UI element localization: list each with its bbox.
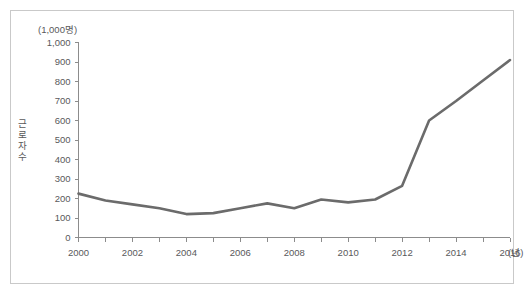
x-tick-label: 2004 bbox=[176, 247, 197, 258]
x-tick-label: 2014 bbox=[445, 247, 466, 258]
x-tick-label: 2010 bbox=[338, 247, 359, 258]
x-tick-label: 2002 bbox=[122, 247, 143, 258]
chart-figure: (1,000명) 근 로 자 수 01002003004005006007008… bbox=[0, 0, 525, 295]
y-tick-label: 400 bbox=[55, 154, 71, 165]
x-tick-label: 2006 bbox=[230, 247, 251, 258]
x-tick-label: 2000 bbox=[68, 247, 89, 258]
y-tick-label: 0 bbox=[65, 232, 70, 243]
y-tick-label: 300 bbox=[55, 173, 71, 184]
y-tick-label: 100 bbox=[55, 212, 71, 223]
y-axis-ticks: 01002003004005006007008009001,000 bbox=[47, 37, 79, 243]
y-tick-label: 700 bbox=[55, 95, 71, 106]
y-tick-label: 900 bbox=[55, 56, 71, 67]
y-tick-label: 800 bbox=[55, 76, 71, 87]
x-axis-unit-label: (년) bbox=[508, 247, 523, 258]
x-axis-ticks: 200020022004200620082010201220142016 bbox=[68, 238, 521, 258]
y-tick-label: 500 bbox=[55, 134, 71, 145]
y-tick-label: 200 bbox=[55, 193, 71, 204]
line-chart-plot: 01002003004005006007008009001,000 200020… bbox=[0, 0, 525, 295]
data-series-line bbox=[79, 60, 511, 214]
y-tick-label: 1,000 bbox=[47, 37, 71, 48]
x-tick-label: 2012 bbox=[392, 247, 413, 258]
y-tick-label: 600 bbox=[55, 115, 71, 126]
x-tick-label: 2008 bbox=[284, 247, 305, 258]
